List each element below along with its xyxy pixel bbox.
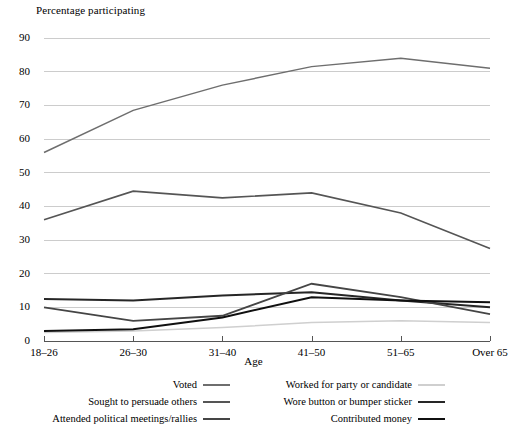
legend-item-swatch [418,418,445,420]
legend-item: Wore button or bumper sticker [245,394,445,410]
legend-item-swatch [203,418,230,420]
legend-item-label: Sought to persuade others [88,396,197,408]
x-axis-title: Age [0,355,507,367]
legend-item-swatch [203,384,230,386]
y-axis-tick-label: 30 [0,234,30,245]
legend-item-swatch [418,384,445,386]
series-line [44,284,490,321]
legend-item-swatch [418,401,445,403]
legend-item: Contributed money [245,411,445,427]
legend-item: Sought to persuade others [30,394,230,410]
y-axis-tick-label: 20 [0,268,30,279]
y-axis-tick-label: 10 [0,301,30,312]
chart-legend: VotedSought to persuade othersAttended p… [0,377,507,437]
y-axis-tick-label: 40 [0,200,30,211]
y-axis-tick-label: 50 [0,167,30,178]
y-axis-tick-label: 90 [0,32,30,43]
legend-item-label: Attended political meetings/rallies [52,413,197,425]
legend-item-label: Voted [173,379,197,391]
series-line [44,321,490,333]
legend-item-label: Worked for party or candidate [286,379,412,391]
legend-item: Worked for party or candidate [245,377,445,393]
legend-item-label: Contributed money [331,413,412,425]
y-axis-tick-label: 70 [0,99,30,110]
y-axis-tick-label: 60 [0,133,30,144]
y-axis-tick-label: 0 [0,335,30,346]
legend-item: Voted [30,377,230,393]
plot-area [0,0,507,360]
y-axis-tick-label: 80 [0,66,30,77]
legend-item: Attended political meetings/rallies [30,411,230,427]
legend-item-swatch [203,401,230,403]
legend-item-label: Wore button or bumper sticker [283,396,412,408]
